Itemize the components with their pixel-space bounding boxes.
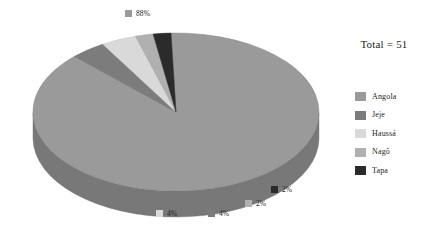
callout-nago: 2% <box>245 200 266 208</box>
callout-angola: 88% <box>125 10 150 18</box>
callout-jeje: 4% <box>208 210 229 218</box>
callout-swatch-nago <box>245 200 252 207</box>
legend-item-label: Haussá <box>372 130 396 138</box>
legend-item-label: Tapa <box>372 167 388 175</box>
legend-item-jeje[interactable]: Jeje <box>355 108 396 123</box>
legend-swatch-icon <box>355 129 366 138</box>
callout-label-tapa: 2% <box>282 186 292 194</box>
legend-item-angola[interactable]: Angola <box>355 89 396 104</box>
pie-plot-area <box>0 0 338 232</box>
callout-label-angola: 88% <box>136 10 150 18</box>
chart-side-panel: Total = 51 AngolaJejeHaussáNagôTapa <box>338 0 423 232</box>
callout-swatch-angola <box>125 10 132 17</box>
legend-item-tapa[interactable]: Tapa <box>355 163 396 178</box>
callout-swatch-jeje <box>208 210 215 217</box>
pie-chart-figure: 88% 4% 4% 2% 2% Total = 51 AngolaJejeHau… <box>0 0 423 232</box>
legend-item-nagô[interactable]: Nagô <box>355 145 396 160</box>
callout-label-haussa: 4% <box>167 210 177 218</box>
callout-swatch-tapa <box>271 186 278 193</box>
pie-svg <box>0 0 338 232</box>
legend-swatch-icon <box>355 166 366 175</box>
callout-tapa: 2% <box>271 186 292 194</box>
callout-swatch-haussa <box>156 210 163 217</box>
legend-swatch-icon <box>355 111 366 120</box>
legend-item-label: Nagô <box>372 148 390 156</box>
legend-item-label: Jeje <box>372 111 385 119</box>
callout-label-jeje: 4% <box>219 210 229 218</box>
callout-haussa: 4% <box>156 210 177 218</box>
legend-swatch-icon <box>355 148 366 157</box>
legend-swatch-icon <box>355 92 366 101</box>
total-annotation: Total = 51 <box>345 38 423 50</box>
callout-label-nago: 2% <box>256 200 266 208</box>
legend-item-haussá[interactable]: Haussá <box>355 126 396 141</box>
legend-item-label: Angola <box>372 93 396 101</box>
legend: AngolaJejeHaussáNagôTapa <box>355 89 396 182</box>
